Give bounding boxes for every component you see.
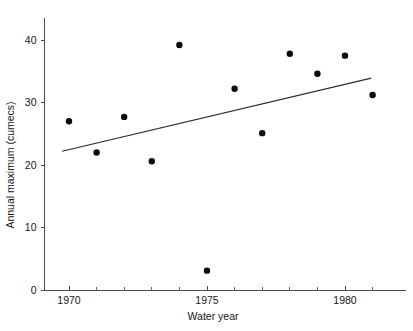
data-point-marker [231, 86, 237, 92]
data-point-marker [149, 158, 155, 164]
y-axis-title: Annual maximum (cumecs) [4, 101, 16, 228]
plot-area: 010203040 197019751980 Water year Annual… [0, 0, 413, 331]
x-axis: 197019751980 [45, 286, 407, 306]
data-point-marker [66, 118, 72, 124]
x-tick-label: 1975 [195, 294, 219, 306]
trend-line [62, 78, 371, 151]
y-tick-label: 0 [31, 284, 37, 296]
x-tick-label: 1980 [333, 294, 357, 306]
data-point-marker [342, 52, 348, 58]
data-point-marker [93, 149, 99, 155]
y-tick-label: 40 [25, 34, 37, 46]
y-tick-label: 20 [25, 159, 37, 171]
y-tick-label: 10 [25, 221, 37, 233]
y-axis: 010203040 [25, 18, 45, 296]
data-point-marker [176, 42, 182, 48]
regression-line [62, 78, 371, 151]
data-point-marker [314, 71, 320, 77]
data-points [66, 42, 376, 274]
data-point-marker [259, 130, 265, 136]
data-point-marker [204, 267, 210, 273]
scatter-chart: 010203040 197019751980 Water year Annual… [0, 0, 413, 331]
y-tick-label: 30 [25, 96, 37, 108]
data-point-marker [287, 51, 293, 57]
x-tick-label: 1970 [57, 294, 81, 306]
data-point-marker [121, 114, 127, 120]
x-axis-title: Water year [188, 310, 239, 322]
data-point-marker [369, 92, 375, 98]
